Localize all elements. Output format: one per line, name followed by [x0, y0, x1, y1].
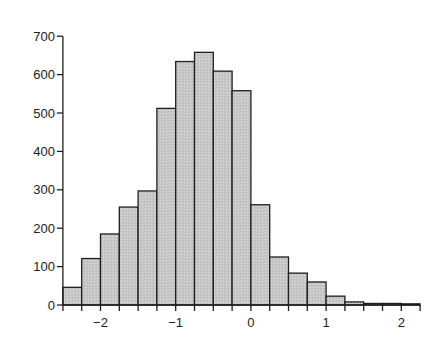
histogram-bar — [251, 205, 270, 305]
histogram-bar — [157, 108, 176, 305]
y-tick-label: 0 — [48, 298, 55, 313]
y-axis: 0100200300400500600700 — [33, 29, 63, 313]
y-tick-label: 100 — [33, 259, 55, 274]
x-tick-label: 2 — [398, 315, 405, 330]
x-tick-label: −1 — [168, 315, 183, 330]
histogram-bar — [82, 259, 101, 305]
histogram-bar — [119, 207, 138, 305]
x-tick-label: 0 — [247, 315, 254, 330]
histogram-bar — [270, 257, 289, 305]
histogram-bar — [63, 287, 82, 305]
x-tick-label: 1 — [322, 315, 329, 330]
histogram-bar — [289, 273, 308, 305]
y-tick-label: 300 — [33, 182, 55, 197]
histogram-bar — [326, 296, 345, 305]
histogram-bar — [307, 282, 326, 305]
x-tick-label: −2 — [93, 315, 108, 330]
y-tick-label: 700 — [33, 29, 55, 44]
histogram-bar — [138, 191, 157, 305]
y-tick-label: 400 — [33, 144, 55, 159]
histogram-bar — [195, 52, 214, 305]
y-tick-label: 200 — [33, 221, 55, 236]
histogram-bar — [232, 91, 251, 305]
histogram-bar — [213, 71, 232, 305]
histogram-bars — [63, 52, 420, 305]
histogram-bar — [101, 234, 120, 305]
x-axis: −2−1012 — [63, 305, 420, 330]
y-tick-label: 600 — [33, 67, 55, 82]
y-tick-label: 500 — [33, 106, 55, 121]
histogram-bar — [176, 62, 195, 305]
histogram-chart: 0100200300400500600700 −2−1012 — [0, 0, 438, 346]
